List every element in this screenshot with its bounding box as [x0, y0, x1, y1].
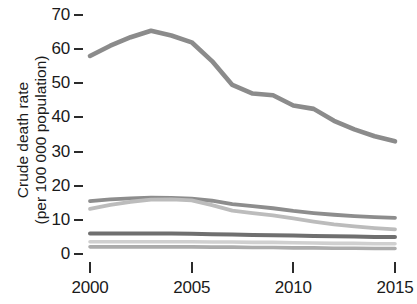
line-series-6	[90, 247, 395, 249]
line-series-4	[90, 234, 395, 237]
plot-area	[0, 0, 417, 304]
series-group	[90, 31, 395, 249]
line-series-1	[90, 31, 395, 142]
line-series-5	[90, 242, 395, 244]
chart-container: Crude death rate (per 100 000 population…	[0, 0, 417, 304]
